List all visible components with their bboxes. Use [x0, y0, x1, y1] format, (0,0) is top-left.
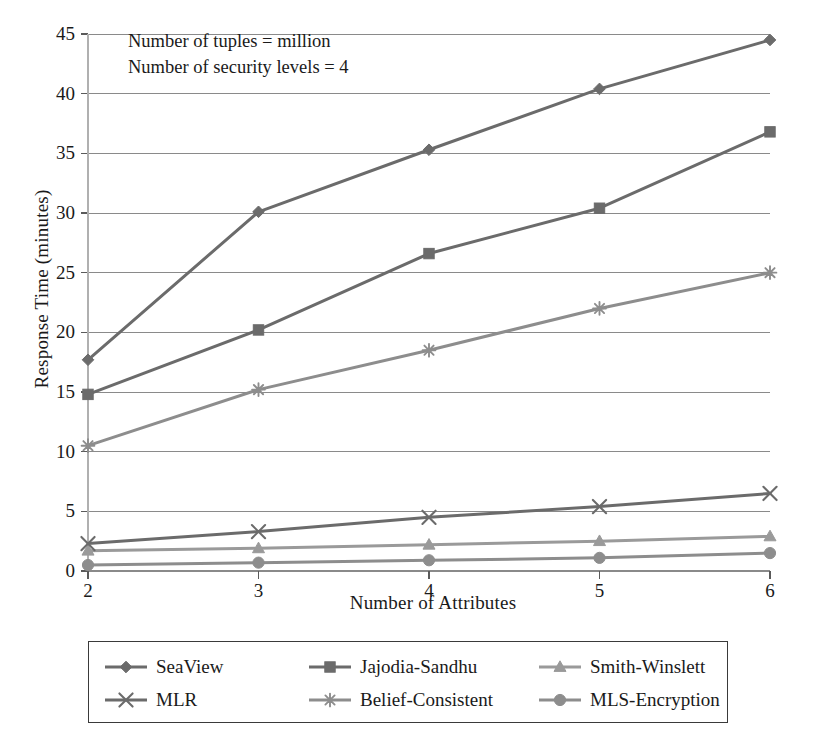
y-tick-label: 20	[29, 322, 75, 341]
data-point-marker	[83, 389, 93, 399]
series-seaview	[82, 34, 776, 365]
y-tick-label: 15	[29, 382, 75, 401]
legend-item-seaview[interactable]: SeaView	[89, 650, 307, 683]
series-mls-encryption	[82, 548, 775, 571]
legend-item-belief-consistent[interactable]: Belief-Consistent	[307, 683, 537, 716]
data-point-marker	[325, 661, 335, 671]
belief-consistent-marker-icon	[307, 689, 353, 711]
x-tick-label: 6	[750, 581, 790, 600]
mlr-marker-icon	[103, 689, 149, 711]
legend-row: SeaView Jajodia-Sandhu Smith-Winslett	[89, 650, 727, 683]
data-point-marker	[253, 557, 264, 568]
data-point-marker	[554, 694, 565, 705]
series-smith-winslett	[82, 530, 776, 555]
series-line	[88, 40, 770, 360]
chart-annotation: Number of tuples = million Number of sec…	[128, 28, 349, 80]
legend-item-mlr[interactable]: MLR	[89, 683, 307, 716]
series-belief-consistent	[82, 266, 777, 452]
data-point-marker	[764, 266, 777, 279]
line-chart-plot	[0, 0, 816, 743]
data-point-marker	[424, 248, 434, 258]
y-axis-title: Response Time (minutes)	[31, 129, 53, 449]
data-point-marker	[252, 383, 265, 396]
legend-label: Smith-Winslett	[590, 656, 705, 678]
x-tick-label: 5	[580, 581, 620, 600]
y-tick-label: 5	[29, 501, 75, 520]
data-point-marker	[423, 555, 434, 566]
data-point-marker	[593, 302, 606, 315]
x-tick-label: 4	[409, 581, 449, 600]
legend-label: SeaView	[156, 656, 223, 678]
y-tick-label: 45	[29, 24, 75, 43]
seaview-marker-icon	[103, 656, 149, 678]
legend-label: MLR	[156, 689, 197, 711]
legend-label: Belief-Consistent	[360, 689, 493, 711]
y-tick-label: 0	[29, 561, 75, 580]
legend-label: Jajodia-Sandhu	[360, 656, 477, 678]
series-jajodia-sandhu	[83, 127, 775, 400]
legend-label: MLS-Encryption	[590, 689, 720, 711]
data-point-marker	[594, 83, 606, 95]
y-tick-label: 30	[29, 203, 75, 222]
annotation-line-2: Number of security levels = 4	[128, 54, 349, 80]
legend-item-jajodia-sandhu[interactable]: Jajodia-Sandhu	[307, 650, 537, 683]
x-tick-label: 3	[239, 581, 279, 600]
data-point-marker	[120, 661, 132, 673]
y-tick-label: 25	[29, 263, 75, 282]
legend-item-mls-encryption[interactable]: MLS-Encryption	[537, 683, 727, 716]
data-point-marker	[765, 127, 775, 137]
chart-legend: SeaView Jajodia-Sandhu Smith-Winslett ML…	[88, 641, 728, 723]
y-tick-label: 35	[29, 143, 75, 162]
data-point-marker	[253, 325, 263, 335]
legend-item-smith-winslett[interactable]: Smith-Winslett	[537, 650, 727, 683]
smith-winslett-marker-icon	[537, 656, 583, 678]
data-point-marker	[423, 344, 436, 357]
annotation-line-1: Number of tuples = million	[128, 28, 349, 54]
data-point-marker	[594, 203, 604, 213]
legend-row: MLR Belief-Consistent MLS-Encryption	[89, 683, 727, 716]
data-point-marker	[324, 693, 337, 706]
x-tick-label: 2	[68, 581, 108, 600]
series-line	[88, 273, 770, 446]
chart-figure: Response Time (minutes) Number of Attrib…	[0, 0, 816, 743]
data-point-marker	[764, 34, 776, 46]
data-point-marker	[82, 559, 93, 570]
y-tick-label: 40	[29, 84, 75, 103]
jajodia-sandhu-marker-icon	[307, 656, 353, 678]
data-point-marker	[764, 548, 775, 559]
mls-encryption-marker-icon	[537, 689, 583, 711]
data-point-marker	[82, 439, 95, 452]
y-tick-label: 10	[29, 442, 75, 461]
data-point-marker	[594, 552, 605, 563]
